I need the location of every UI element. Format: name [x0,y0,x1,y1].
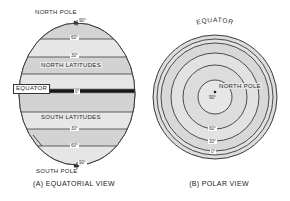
equator-label: EQUATOR [13,84,50,94]
degree-label-pole-90: 90° [209,95,216,100]
svg-text:EQUATOR: EQUATOR [195,16,234,26]
degree-label-equator-0: 0° [74,89,80,94]
degree-label-north-30: 30° [70,53,79,58]
degree-label-south-30: 30° [70,126,79,131]
degree-label-north-60: 60° [70,35,79,40]
degree-label-ring-60: 60° [208,126,217,131]
polar-equator-label: EQUATOR [195,16,234,26]
panel-b-caption: (B) POLAR VIEW [148,180,290,187]
degree-label-ring-0: 0° [210,149,216,154]
south-pole-label: SOUTH POLE [36,168,78,174]
north-pole-label: NORTH POLE [35,9,77,15]
panel-polar-view: EQUATOR NORTH POLE 90° 60° 30° 0° (B) PO… [148,0,290,201]
polar-equator-label-layer: EQUATOR [148,0,290,201]
south-latitudes-label: SOUTH LATITUDES [40,114,102,120]
degree-label-south-90: 90° [78,160,87,165]
polar-north-pole-label: NORTH POLE [218,83,262,89]
north-latitudes-label: NORTH LATITUDES [40,62,102,68]
degree-label-ring-30: 30° [208,139,217,144]
panel-a-caption: (A) EQUATORIAL VIEW [0,180,148,187]
figure-root: NORTH POLE 90° 60° 30° NORTH LATITUDES E… [0,0,290,201]
degree-label-north-90: 90° [78,18,87,23]
panel-equatorial-view: NORTH POLE 90° 60° 30° NORTH LATITUDES E… [0,0,148,201]
degree-label-south-60: 60° [70,143,79,148]
